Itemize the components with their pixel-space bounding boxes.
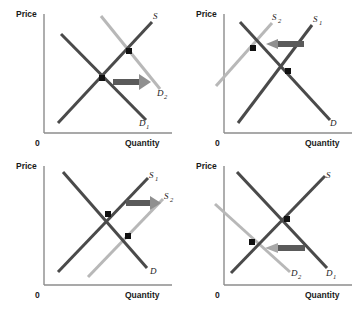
panel-2-origin-label: 0 xyxy=(215,138,220,148)
panel-4-quantity-axis-label: Quantity xyxy=(305,290,340,300)
panel-4-price-axis-label: Price xyxy=(196,161,217,171)
svg-text:D: D xyxy=(290,268,298,278)
panel-3-equilibrium-dot-initial xyxy=(105,211,111,217)
panel-1-label-s: S xyxy=(153,11,158,21)
panel-3-quantity-axis-label: Quantity xyxy=(125,290,160,300)
svg-text:2: 2 xyxy=(278,17,282,24)
panel-3-label-s2: S 2 xyxy=(164,191,174,203)
svg-text:D: D xyxy=(156,88,164,98)
panel-1-label-d2: D 2 xyxy=(156,88,168,100)
panel-2-supply-decrease: Price Quantity 0 S 2 S 1 D xyxy=(196,9,352,148)
svg-text:S: S xyxy=(272,12,277,22)
svg-text:D: D xyxy=(325,268,333,278)
panel-3-supply-curve-s1 xyxy=(58,178,148,272)
panel-2-equilibrium-dot-new xyxy=(250,45,256,51)
panel-1-origin-label: 0 xyxy=(35,138,40,148)
svg-text:2: 2 xyxy=(164,93,168,100)
panel-2-label-d: D xyxy=(329,118,337,128)
svg-text:1: 1 xyxy=(333,273,336,280)
panel-3-price-axis-label: Price xyxy=(16,161,37,171)
panel-4-label-s: S xyxy=(326,170,331,180)
svg-text:1: 1 xyxy=(155,175,158,182)
panel-2-label-s2: S 2 xyxy=(272,12,282,24)
svg-text:S: S xyxy=(313,14,318,24)
panel-2-price-axis-label: Price xyxy=(196,9,217,19)
panel-1-supply-curve-s xyxy=(58,22,152,123)
panel-1-shift-arrow-right xyxy=(113,74,151,90)
panel-4-shift-arrow-left xyxy=(265,243,305,253)
panel-4-demand-curve-d2 xyxy=(215,204,290,272)
panel-1-equilibrium-dot-new xyxy=(126,48,132,54)
panel-4-label-d2: D 2 xyxy=(290,268,302,280)
panel-3-label-d: D xyxy=(149,266,157,276)
panel-3-supply-increase: Price Quantity 0 S 1 S 2 D xyxy=(16,161,174,300)
panel-4-equilibrium-dot-new xyxy=(249,239,255,245)
panel-4-supply-curve-s xyxy=(231,176,325,273)
panel-2-supply-curve-s1 xyxy=(238,25,312,123)
panel-4-origin-label: 0 xyxy=(215,290,220,300)
panel-4-demand-decrease: Price Quantity 0 S D 2 D 1 xyxy=(196,161,352,300)
panel-4-equilibrium-dot-initial xyxy=(284,216,290,222)
panel-1-label-d1: D 1 xyxy=(138,118,149,130)
panel-2-quantity-axis-label: Quantity xyxy=(305,138,340,148)
panel-2-shift-arrow-left xyxy=(266,39,304,49)
svg-text:2: 2 xyxy=(170,196,174,203)
svg-text:S: S xyxy=(164,191,169,201)
svg-text:D: D xyxy=(138,118,146,128)
svg-text:S: S xyxy=(149,170,154,180)
panel-3-equilibrium-dot-new xyxy=(125,233,131,239)
panel-3-label-s1: S 1 xyxy=(149,170,158,182)
svg-text:2: 2 xyxy=(298,273,302,280)
svg-text:1: 1 xyxy=(319,19,322,26)
panel-2-equilibrium-dot-initial xyxy=(285,68,291,74)
supply-demand-figure: Price Quantity 0 S D 1 D 2 Price Quantit… xyxy=(0,0,360,311)
panel-3-origin-label: 0 xyxy=(35,290,40,300)
panel-1-quantity-axis-label: Quantity xyxy=(125,138,160,148)
panel-1-demand-increase: Price Quantity 0 S D 1 D 2 xyxy=(16,9,172,148)
panel-2-label-s1: S 1 xyxy=(313,14,322,26)
panel-1-equilibrium-dot-initial xyxy=(99,75,105,81)
svg-text:1: 1 xyxy=(146,123,149,130)
panel-1-price-axis-label: Price xyxy=(16,9,37,19)
panel-4-label-d1: D 1 xyxy=(325,268,336,280)
